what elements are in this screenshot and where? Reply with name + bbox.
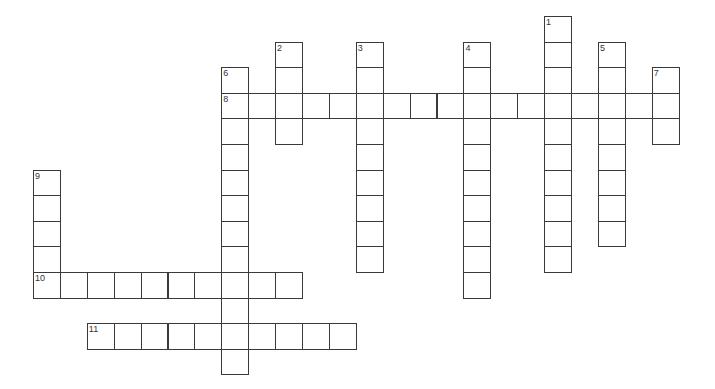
crossword-cell[interactable]	[544, 195, 572, 222]
crossword-cell[interactable]	[463, 118, 491, 145]
crossword-cell[interactable]	[33, 246, 61, 273]
crossword-cell[interactable]: 2	[275, 42, 303, 69]
crossword-cell[interactable]	[275, 93, 303, 120]
clue-number: 4	[465, 43, 470, 53]
crossword-cell[interactable]	[463, 246, 491, 273]
crossword-cell[interactable]	[544, 118, 572, 145]
crossword-cell[interactable]	[221, 195, 249, 222]
crossword-cell[interactable]	[248, 323, 276, 350]
crossword-cell[interactable]: 7	[652, 67, 680, 94]
crossword-cell[interactable]	[598, 170, 626, 197]
crossword-cell[interactable]	[598, 221, 626, 248]
crossword-cell[interactable]	[517, 93, 545, 120]
crossword-cell[interactable]	[356, 170, 384, 197]
crossword-cell[interactable]	[598, 118, 626, 145]
clue-number: 2	[277, 43, 282, 53]
crossword-cell[interactable]	[221, 323, 249, 350]
crossword-cell[interactable]	[275, 118, 303, 145]
crossword-cell[interactable]: 10	[33, 272, 61, 299]
crossword-cell[interactable]	[356, 118, 384, 145]
crossword-cell[interactable]: 8	[221, 93, 249, 120]
crossword-cell[interactable]	[652, 118, 680, 145]
crossword-cell[interactable]: 3	[356, 42, 384, 69]
crossword-cell[interactable]	[248, 93, 276, 120]
crossword-cell[interactable]	[598, 195, 626, 222]
crossword-cell[interactable]	[221, 246, 249, 273]
crossword-cell[interactable]	[221, 298, 249, 325]
crossword-cell[interactable]	[275, 67, 303, 94]
crossword-cell[interactable]	[302, 323, 330, 350]
clue-number: 11	[89, 324, 98, 334]
crossword-cell[interactable]	[356, 195, 384, 222]
crossword-cell[interactable]	[544, 144, 572, 171]
crossword-cell[interactable]	[356, 93, 384, 120]
crossword-cell[interactable]: 5	[598, 42, 626, 69]
crossword-cell[interactable]	[221, 118, 249, 145]
clue-number: 5	[600, 43, 605, 53]
crossword-cell[interactable]	[544, 93, 572, 120]
crossword-cell[interactable]	[168, 272, 196, 299]
crossword-cell[interactable]: 11	[87, 323, 115, 350]
crossword-cell[interactable]	[383, 93, 411, 120]
crossword-cell[interactable]	[275, 323, 303, 350]
crossword-cell[interactable]	[302, 93, 330, 120]
crossword-cell[interactable]	[598, 144, 626, 171]
crossword-cell[interactable]	[571, 93, 599, 120]
crossword-cell[interactable]	[463, 67, 491, 94]
crossword-cell[interactable]	[544, 221, 572, 248]
crossword-cell[interactable]	[598, 67, 626, 94]
crossword-cell[interactable]	[544, 67, 572, 94]
crossword-cell[interactable]	[356, 246, 384, 273]
crossword-cell[interactable]	[33, 195, 61, 222]
crossword-cell[interactable]	[356, 144, 384, 171]
crossword-cell[interactable]	[463, 170, 491, 197]
crossword-cell[interactable]	[168, 323, 196, 350]
clue-number: 8	[223, 94, 228, 104]
crossword-cell[interactable]	[463, 93, 491, 120]
crossword-cell[interactable]	[463, 195, 491, 222]
crossword-cell[interactable]	[329, 323, 357, 350]
crossword-cell[interactable]: 6	[221, 67, 249, 94]
crossword-cell[interactable]	[33, 221, 61, 248]
crossword-cell[interactable]	[652, 93, 680, 120]
crossword-cell[interactable]: 9	[33, 170, 61, 197]
clue-number: 3	[358, 43, 363, 53]
crossword-cell[interactable]	[221, 349, 249, 376]
crossword-cell[interactable]	[598, 93, 626, 120]
crossword-cell[interactable]	[114, 272, 142, 299]
crossword-cell[interactable]	[194, 323, 222, 350]
clue-number: 7	[654, 68, 659, 78]
crossword-cell[interactable]	[625, 93, 653, 120]
crossword-cell[interactable]	[114, 323, 142, 350]
crossword-cell[interactable]	[410, 93, 438, 120]
crossword-cell[interactable]	[356, 221, 384, 248]
clue-number: 9	[35, 171, 40, 181]
crossword-cell[interactable]	[194, 272, 222, 299]
crossword-cell[interactable]	[437, 93, 465, 120]
crossword-cell[interactable]	[463, 221, 491, 248]
crossword-cell[interactable]	[463, 144, 491, 171]
crossword-cell[interactable]	[544, 246, 572, 273]
crossword-cell[interactable]	[221, 170, 249, 197]
crossword-cell[interactable]	[60, 272, 88, 299]
crossword-cell[interactable]	[544, 42, 572, 69]
clue-number: 6	[223, 68, 228, 78]
crossword-cell[interactable]	[141, 323, 169, 350]
crossword-cell[interactable]	[221, 221, 249, 248]
crossword-cell[interactable]	[221, 272, 249, 299]
crossword-cell[interactable]	[248, 272, 276, 299]
crossword-grid: 1234568791011	[0, 0, 715, 389]
crossword-cell[interactable]: 4	[463, 42, 491, 69]
crossword-cell[interactable]	[544, 170, 572, 197]
crossword-cell[interactable]	[275, 272, 303, 299]
crossword-cell[interactable]	[356, 67, 384, 94]
crossword-cell[interactable]	[490, 93, 518, 120]
crossword-cell[interactable]	[221, 144, 249, 171]
clue-number: 10	[35, 273, 45, 283]
clue-number: 1	[546, 17, 551, 27]
crossword-cell[interactable]	[141, 272, 169, 299]
crossword-cell[interactable]	[87, 272, 115, 299]
crossword-cell[interactable]: 1	[544, 16, 572, 43]
crossword-cell[interactable]	[463, 272, 491, 299]
crossword-cell[interactable]	[329, 93, 357, 120]
